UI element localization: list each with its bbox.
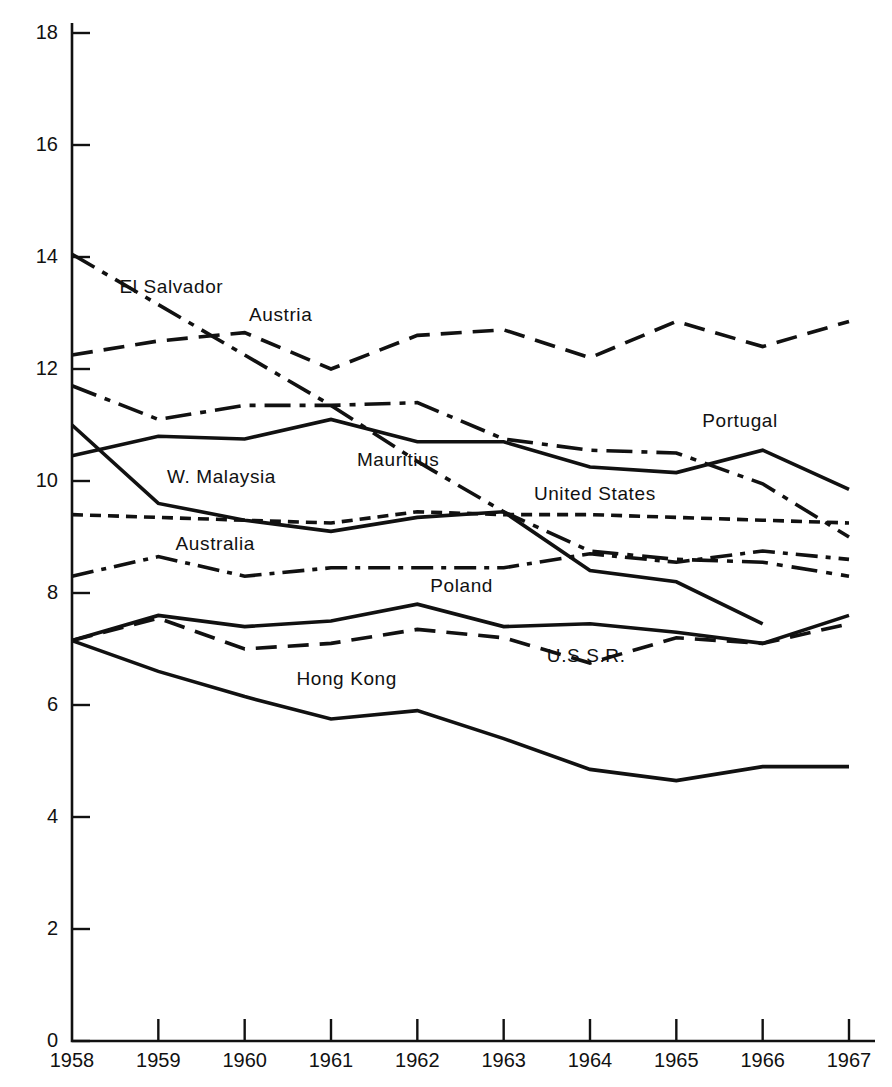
series-label-austria: Austria [249, 304, 312, 325]
chart-container: 024681012141618 195819591960196119621963… [0, 0, 892, 1087]
x-tick-label: 1964 [568, 1049, 613, 1071]
line-chart-figure: 024681012141618 195819591960196119621963… [0, 0, 892, 1087]
y-tick-label: 2 [47, 917, 58, 939]
series-label-hong-kong: Hong Kong [296, 668, 396, 689]
series-label-mauritius: Mauritius [357, 449, 439, 470]
y-tick-label: 4 [47, 805, 58, 827]
x-tick-label: 1962 [395, 1049, 440, 1071]
x-tick-label: 1959 [136, 1049, 181, 1071]
y-tick-label: 14 [36, 245, 58, 267]
x-tick-label: 1958 [50, 1049, 95, 1071]
x-tick-label: 1966 [740, 1049, 785, 1071]
y-tick-label: 16 [36, 133, 58, 155]
series-label-el-salvador: El Salvador [119, 276, 223, 297]
y-tick-label: 10 [36, 469, 58, 491]
series-label-poland: Poland [430, 575, 493, 596]
y-tick-label: 6 [47, 693, 58, 715]
x-tick-label: 1961 [309, 1049, 354, 1071]
series-label-australia: Australia [176, 533, 255, 554]
y-tick-label: 8 [47, 581, 58, 603]
y-tick-label: 18 [36, 21, 58, 43]
y-tick-label: 12 [36, 357, 58, 379]
series-label-united-states: United States [534, 483, 656, 504]
x-tick-label: 1965 [654, 1049, 699, 1071]
x-tick-label: 1960 [222, 1049, 267, 1071]
x-tick-label: 1967 [827, 1049, 872, 1071]
y-tick-label: 0 [47, 1029, 58, 1051]
series-label-w-malaysia: W. Malaysia [167, 466, 276, 487]
chart-background [0, 0, 892, 1087]
x-tick-label: 1963 [481, 1049, 526, 1071]
series-label-u-s-s-r: U.S.S.R. [547, 645, 626, 666]
series-label-portugal: Portugal [702, 410, 778, 431]
